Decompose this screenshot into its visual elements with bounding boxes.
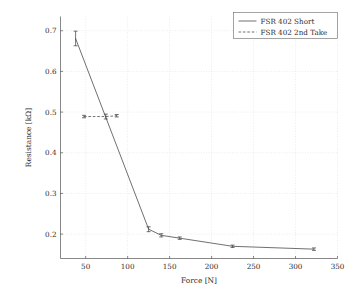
y-tick-label: 0.6 [45,67,57,76]
chart-legend: FSR 402 ShortFSR 402 2nd Take [234,13,338,39]
x-tick-label: 300 [289,262,303,271]
x-axis-title: Force [N] [181,276,217,285]
legend-label-1: FSR 402 2nd Take [261,28,328,37]
x-tick-label: 100 [121,262,135,271]
x-tick-label: 150 [163,262,177,271]
x-tick-label: 350 [331,262,345,271]
legend-label-0: FSR 402 Short [261,17,315,26]
chart-figure: 50100150200250300350 0.20.30.40.50.60.7 … [0,0,350,294]
series-line-1 [84,116,117,117]
y-axis-title: Resistance [kΩ] [24,108,33,167]
x-tick-label: 250 [247,262,261,271]
grid-lines [61,17,338,259]
y-tick-label: 0.4 [45,148,57,157]
x-tick-label: 50 [81,262,91,271]
y-tick-label: 0.5 [45,108,57,117]
y-tick-label: 0.2 [45,230,56,239]
x-tick-label: 200 [205,262,219,271]
resistance-vs-force-chart: 50100150200250300350 0.20.30.40.50.60.7 … [0,0,350,294]
axis-frame [61,17,338,259]
y-tick-label: 0.3 [45,189,57,198]
y-tick-label: 0.7 [45,26,57,35]
data-series [74,31,316,250]
series-line-0 [76,38,314,249]
